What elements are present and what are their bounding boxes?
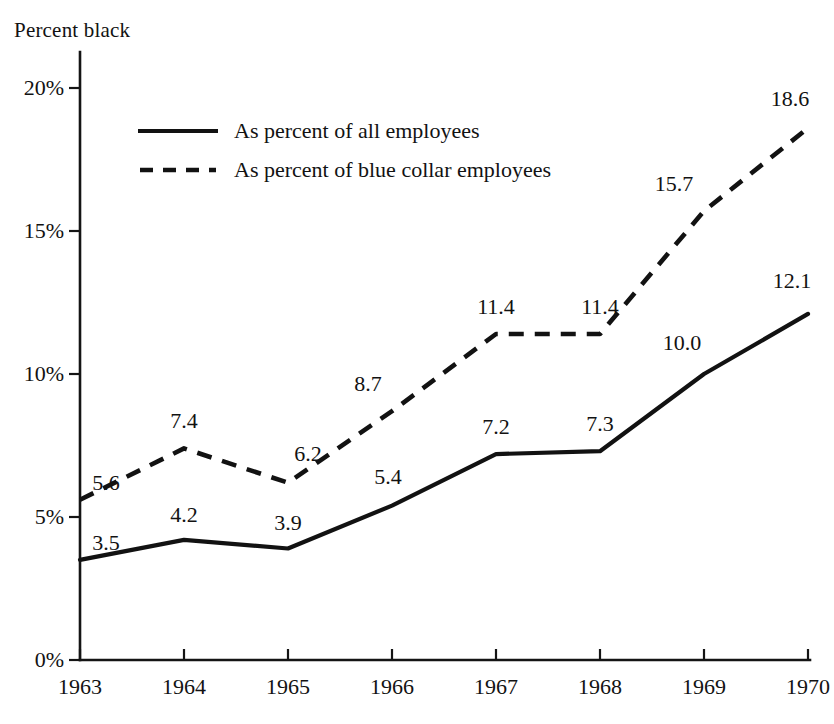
data-point-label: 7.2 [482, 414, 510, 440]
data-point-label: 10.0 [663, 330, 702, 356]
data-point-label: 11.4 [477, 294, 515, 320]
data-point-label: 12.1 [773, 268, 812, 294]
y-tick-label: 10% [24, 361, 64, 387]
data-point-label: 8.7 [354, 371, 382, 397]
x-tick-label: 1964 [162, 674, 206, 700]
x-tick-label: 1966 [370, 674, 414, 700]
chart-page: Percent black 20%15%10%5%0% 196319641965… [0, 0, 834, 724]
plot-area [0, 0, 834, 724]
y-tick-label: 0% [35, 647, 64, 673]
series-line-blue-collar [80, 128, 808, 500]
legend-label-blue-collar: As percent of blue collar employees [234, 157, 551, 183]
x-tick-label: 1968 [578, 674, 622, 700]
data-point-label: 11.4 [581, 294, 619, 320]
data-point-label: 7.4 [170, 408, 198, 434]
legend-label-all-employees: As percent of all employees [234, 118, 480, 144]
x-tick-label: 1970 [786, 674, 830, 700]
data-point-label: 6.2 [294, 441, 322, 467]
y-tick-marks [69, 88, 80, 660]
y-tick-label: 20% [24, 75, 64, 101]
data-point-label: 4.2 [170, 502, 198, 528]
legend-swatches [140, 131, 216, 170]
data-point-label: 3.5 [92, 530, 120, 556]
x-tick-label: 1967 [474, 674, 518, 700]
x-tick-label: 1969 [682, 674, 726, 700]
data-point-label: 15.7 [655, 171, 694, 197]
x-tick-label: 1963 [58, 674, 102, 700]
data-point-label: 3.9 [274, 510, 302, 536]
x-tick-label: 1965 [266, 674, 310, 700]
x-tick-marks [80, 649, 808, 660]
data-point-label: 5.6 [92, 470, 120, 496]
data-point-label: 18.6 [771, 86, 810, 112]
y-tick-label: 15% [24, 218, 64, 244]
data-point-label: 7.3 [586, 411, 614, 437]
data-point-label: 5.4 [374, 464, 402, 490]
y-tick-label: 5% [35, 504, 64, 530]
